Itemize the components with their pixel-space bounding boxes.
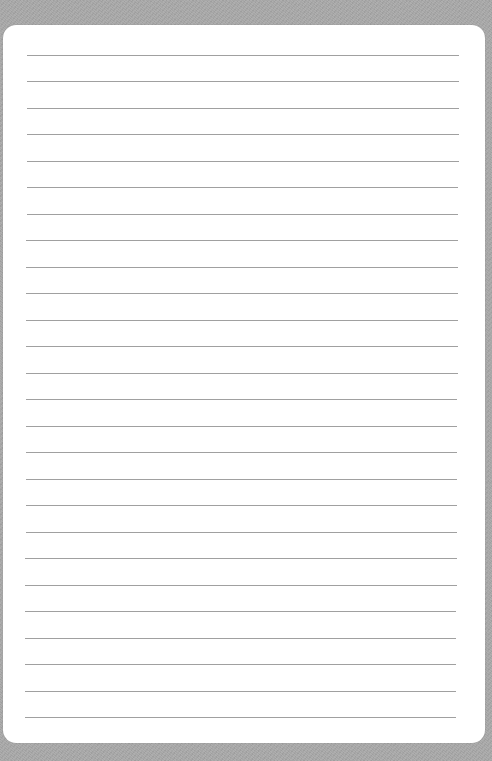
ruled-line <box>26 426 457 427</box>
ruled-line <box>26 373 458 374</box>
ruled-line <box>26 399 457 400</box>
ruled-line <box>27 108 459 109</box>
ruled-line <box>27 55 459 56</box>
ruled-line <box>26 240 458 241</box>
ruled-line <box>25 585 456 586</box>
ruled-line <box>26 320 458 321</box>
ruled-line <box>25 611 456 612</box>
ruled-line <box>27 81 459 82</box>
ruled-line <box>25 691 456 692</box>
ruled-line <box>26 267 458 268</box>
ruled-line <box>27 134 459 135</box>
ruled-line <box>26 505 457 506</box>
ruled-line <box>26 293 458 294</box>
ruled-line <box>25 558 456 559</box>
ruled-line <box>25 638 456 639</box>
ruled-line <box>27 187 459 188</box>
ruled-line <box>26 532 457 533</box>
lined-paper-sheet <box>3 25 485 743</box>
ruled-line <box>27 161 459 162</box>
ruled-line <box>26 346 458 347</box>
ruled-line <box>25 664 456 665</box>
ruled-line <box>26 479 457 480</box>
ruled-line <box>27 214 459 215</box>
ruled-line <box>26 452 457 453</box>
ruled-line <box>25 717 456 718</box>
